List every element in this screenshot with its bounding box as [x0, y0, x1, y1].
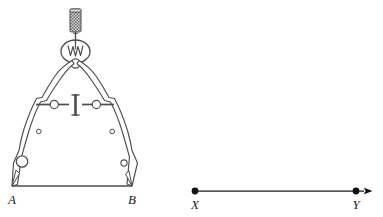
right-adjust-screw — [92, 100, 100, 108]
point-y-dot — [353, 188, 360, 195]
point-x-dot — [192, 188, 199, 195]
left-adjust-screw — [50, 100, 58, 108]
right-leg-rivet — [110, 129, 115, 134]
label-x: X — [190, 197, 200, 212]
right-leg — [77, 61, 138, 187]
ray-xy: X Y — [190, 188, 364, 212]
label-y: Y — [352, 197, 361, 212]
left-leg-rivet — [37, 129, 42, 134]
segment-ab: A B — [7, 186, 136, 207]
figure-canvas: A B X Y — [0, 0, 383, 217]
label-b: B — [128, 192, 136, 207]
left-needle-collar — [16, 156, 27, 167]
right-needle-collar — [121, 160, 127, 166]
label-a: A — [7, 192, 16, 207]
geometry-figure: A B X Y — [0, 0, 383, 217]
knurled-handle — [70, 9, 81, 44]
handle-cap — [70, 9, 81, 12]
compass-tool — [12, 9, 138, 186]
